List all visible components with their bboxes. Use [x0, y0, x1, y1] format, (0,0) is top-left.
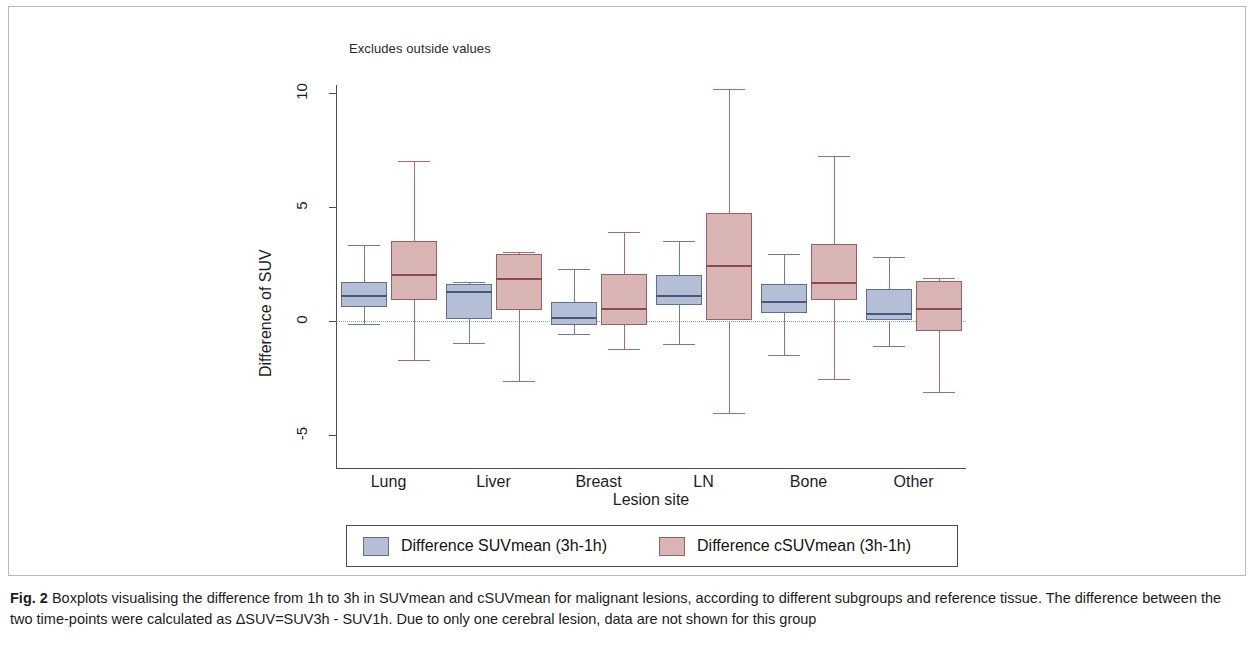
x-category-bone: Bone [749, 473, 869, 491]
median-line [706, 265, 752, 267]
whisker-cap-upper [923, 278, 955, 279]
whisker-lower [414, 300, 415, 360]
whisker-cap-upper [768, 254, 800, 255]
box-iqr [496, 254, 542, 310]
whisker-cap-upper [663, 241, 695, 242]
caption-figure-number: Fig. 2 [10, 590, 48, 606]
whisker-cap-upper [558, 269, 590, 270]
whisker-lower [679, 305, 680, 345]
x-category-liver: Liver [434, 473, 554, 491]
plot-note: Excludes outside values [349, 41, 491, 56]
legend-swatch-csuvmean [659, 537, 685, 556]
whisker-upper [729, 89, 730, 213]
median-line [866, 313, 912, 315]
whisker-cap-lower [503, 381, 535, 382]
legend-label-suvmean: Difference SUVmean (3h-1h) [401, 537, 607, 555]
whisker-cap-lower [608, 349, 640, 350]
figure-frame: Excludes outside values Difference of SU… [8, 6, 1246, 576]
median-line [446, 291, 492, 293]
whisker-upper [414, 161, 415, 241]
x-axis-line [336, 468, 966, 469]
chart-legend: Difference SUVmean (3h-1h) Difference cS… [346, 525, 958, 567]
legend-entry-csuvmean: Difference cSUVmean (3h-1h) [659, 537, 911, 556]
whisker-lower [834, 300, 835, 379]
whisker-cap-lower [558, 334, 590, 335]
whisker-cap-lower [713, 413, 745, 414]
x-category-breast: Breast [539, 473, 659, 491]
zero-line [336, 321, 966, 322]
whisker-cap-lower [818, 379, 850, 380]
whisker-cap-lower [873, 346, 905, 347]
whisker-lower [729, 321, 730, 413]
y-tick-5 [329, 207, 337, 208]
whisker-cap-lower [663, 344, 695, 345]
median-line [656, 295, 702, 297]
whisker-cap-upper [713, 89, 745, 90]
whisker-lower [624, 325, 625, 349]
box-iqr [811, 244, 857, 300]
box-iqr [341, 282, 387, 307]
median-line [391, 274, 437, 276]
whisker-cap-lower [923, 392, 955, 393]
whisker-cap-lower [453, 343, 485, 344]
median-line [341, 295, 387, 297]
median-line [811, 282, 857, 284]
whisker-lower [364, 307, 365, 324]
median-line [496, 278, 542, 280]
whisker-lower [889, 321, 890, 346]
whisker-upper [889, 257, 890, 289]
whisker-lower [939, 331, 940, 393]
whisker-upper [574, 269, 575, 302]
whisker-upper [784, 254, 785, 284]
box-iqr [761, 284, 807, 313]
y-tick-10 [329, 93, 337, 94]
y-tick-label-5: 5 [293, 185, 310, 225]
y-tick-label-10: 10 [293, 71, 310, 111]
y-tick--5 [329, 435, 337, 436]
box-iqr [391, 241, 437, 300]
figure-container: Excludes outside values Difference of SU… [0, 0, 1256, 665]
legend-label-csuvmean: Difference cSUVmean (3h-1h) [697, 537, 911, 555]
whisker-cap-lower [398, 360, 430, 361]
box-iqr [866, 289, 912, 321]
whisker-upper [364, 245, 365, 281]
whisker-upper [834, 156, 835, 244]
median-line [916, 308, 962, 310]
whisker-cap-upper [503, 252, 535, 253]
whisker-cap-upper [873, 257, 905, 258]
whisker-lower [519, 310, 520, 381]
caption-body: Boxplots visualising the difference from… [10, 590, 1221, 627]
whisker-lower [469, 319, 470, 343]
whisker-upper [624, 232, 625, 274]
whisker-lower [784, 313, 785, 355]
y-tick-label--5: -5 [293, 413, 310, 453]
whisker-cap-upper [348, 245, 380, 246]
box-iqr [551, 302, 597, 325]
whisker-cap-lower [348, 324, 380, 325]
x-axis-title: Lesion site [336, 491, 966, 509]
x-category-other: Other [854, 473, 974, 491]
whisker-cap-upper [818, 156, 850, 157]
whisker-lower [574, 325, 575, 334]
legend-entry-suvmean: Difference SUVmean (3h-1h) [363, 537, 607, 556]
whisker-cap-upper [398, 161, 430, 162]
box-iqr [446, 284, 492, 319]
legend-swatch-suvmean [363, 537, 389, 556]
median-line [551, 317, 597, 319]
whisker-cap-upper [453, 282, 485, 283]
x-category-lung: Lung [329, 473, 449, 491]
box-iqr [916, 281, 962, 331]
median-line [601, 308, 647, 310]
y-tick-label-0: 0 [293, 299, 310, 339]
figure-caption: Fig. 2 Boxplots visualising the differen… [10, 588, 1236, 629]
box-iqr [706, 213, 752, 320]
whisker-cap-lower [768, 355, 800, 356]
box-iqr [601, 274, 647, 325]
whisker-cap-upper [608, 232, 640, 233]
box-iqr [656, 275, 702, 305]
whisker-upper [679, 241, 680, 275]
y-axis-title: Difference of SUV [257, 249, 275, 377]
x-category-ln: LN [644, 473, 764, 491]
y-axis-line [336, 85, 337, 469]
median-line [761, 301, 807, 303]
